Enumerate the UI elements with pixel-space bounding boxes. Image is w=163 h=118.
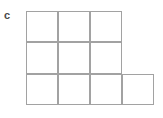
grid-cell <box>58 74 90 105</box>
grid-cell <box>26 11 58 42</box>
grid-cell <box>58 11 90 42</box>
grid-cell <box>26 74 58 105</box>
grid-cell <box>90 74 122 105</box>
grid-cell <box>90 42 122 73</box>
grid-cell <box>26 42 58 73</box>
figure-container: c <box>0 0 163 118</box>
grid-cell <box>122 74 154 105</box>
grid-cell <box>90 11 122 42</box>
grid-cell <box>58 42 90 73</box>
polyomino-grid <box>0 0 163 118</box>
